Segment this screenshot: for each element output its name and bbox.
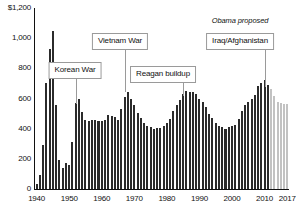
bar — [52, 31, 54, 189]
bar — [81, 112, 83, 189]
bar — [101, 121, 103, 189]
bar — [257, 86, 259, 189]
bar — [264, 80, 266, 189]
bar — [254, 95, 256, 189]
bar — [286, 104, 288, 189]
x-axis-labels: 194019501960197019801990200020102017 — [0, 195, 296, 209]
bar — [192, 92, 194, 189]
bar — [176, 105, 178, 189]
bar — [71, 142, 73, 189]
x-axis-tick-label: 1980 — [158, 195, 175, 203]
bar — [84, 120, 86, 189]
bar — [182, 94, 184, 189]
bar — [218, 126, 220, 189]
bar — [97, 121, 99, 189]
bar — [127, 92, 129, 189]
y-axis-tick-label: $1,200 — [8, 4, 31, 12]
bar — [137, 113, 139, 189]
bar — [117, 120, 119, 189]
bar — [234, 125, 236, 189]
bar — [260, 83, 262, 189]
bar — [166, 123, 168, 189]
y-axis-tick-label: 600 — [18, 95, 31, 103]
bar — [120, 109, 122, 189]
bar — [277, 102, 279, 189]
bar — [39, 175, 41, 189]
bar — [283, 104, 285, 189]
annotation-leader-line — [125, 49, 126, 92]
annotation-callout-korean-war: Korean War — [49, 62, 102, 79]
annotation-note-obama-proposed: Obama proposed — [212, 17, 269, 25]
x-axis-tick-label: 1970 — [126, 195, 143, 203]
bar — [280, 103, 282, 189]
bar — [58, 160, 60, 189]
bar — [156, 128, 158, 189]
x-axis-tick-label: 1960 — [93, 195, 110, 203]
bar — [224, 129, 226, 189]
bar — [270, 89, 272, 189]
bar — [215, 123, 217, 189]
bar — [88, 121, 90, 189]
bar — [198, 99, 200, 190]
y-axis-tick-label: 400 — [18, 125, 31, 133]
bar — [189, 92, 191, 189]
x-axis-tick-label: 1940 — [28, 195, 45, 203]
bar — [238, 119, 240, 189]
y-axis-tick-label: 0 — [27, 185, 31, 193]
annotation-callout-reagan-buildup: Reagan buildup — [130, 66, 196, 83]
bar — [247, 102, 249, 189]
bar — [150, 127, 152, 189]
bar — [104, 120, 106, 189]
bar — [172, 111, 174, 189]
bar — [68, 165, 70, 189]
y-axis-tick-label: 200 — [18, 155, 31, 163]
bar — [124, 97, 126, 189]
bar — [153, 129, 155, 189]
annotation-leader-line — [76, 78, 77, 104]
bar — [208, 114, 210, 189]
bar — [159, 128, 161, 189]
bar — [251, 99, 253, 190]
x-axis-tick-label: 1990 — [191, 195, 208, 203]
x-axis-tick-label: 2000 — [224, 195, 241, 203]
annotation-callout-iraq-afghanistan: Iraq/Afghanistan — [206, 33, 274, 50]
bar — [114, 117, 116, 189]
bar — [169, 119, 171, 189]
bar — [231, 126, 233, 189]
bar — [36, 184, 38, 189]
bar — [244, 105, 246, 189]
bar — [75, 103, 77, 189]
bar — [273, 96, 275, 189]
bar — [205, 107, 207, 189]
bar — [62, 168, 64, 189]
bar — [228, 127, 230, 189]
x-axis-tick-label: 1950 — [61, 195, 78, 203]
x-axis-tick-label: 2010 — [256, 195, 273, 203]
bar — [133, 105, 135, 189]
bar — [211, 118, 213, 189]
y-axis-tick-label: 1,000 — [12, 34, 31, 42]
x-axis-tick-label: 2017 — [279, 195, 296, 203]
bar — [241, 111, 243, 189]
bar — [163, 126, 165, 189]
bar — [221, 127, 223, 189]
bar — [195, 94, 197, 189]
bar — [143, 123, 145, 189]
bar — [107, 115, 109, 189]
bar — [78, 99, 80, 190]
bar — [55, 105, 57, 189]
defense-spending-bar-chart: $1,2001,0008006004002000 194019501960197… — [0, 0, 296, 212]
bar — [202, 102, 204, 189]
bar — [45, 83, 47, 189]
annotation-leader-line — [265, 49, 266, 87]
bar — [130, 99, 132, 190]
bar — [42, 145, 44, 189]
bar — [111, 116, 113, 189]
bar — [146, 126, 148, 189]
y-axis-labels: $1,2001,0008006004002000 — [0, 0, 31, 212]
y-axis-tick-label: 800 — [18, 64, 31, 72]
annotation-leader-line — [183, 82, 184, 96]
bar — [267, 85, 269, 189]
bar — [179, 100, 181, 189]
annotation-callout-vietnam-war: Vietnam War — [92, 33, 148, 50]
